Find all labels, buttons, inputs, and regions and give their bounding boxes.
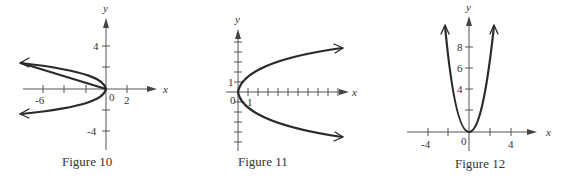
fig12-tick-label-neg4: -4 (421, 138, 431, 150)
fig10-tick-label-0: 0 (109, 91, 115, 103)
figure-12: x y 8 6 4 -4 0 4 Figure 12 (407, 1, 551, 171)
fig11-y-axis-arrow-icon (235, 29, 241, 39)
fig12-caption: Figure 12 (455, 156, 505, 171)
fig12-tick-label-6: 6 (457, 62, 463, 74)
fig10-y-axis-label: y (102, 2, 108, 14)
fig11-tick-label-0: 0 (230, 94, 236, 106)
fig10-tick-label-2: 2 (124, 94, 130, 106)
figure-11: x y (226, 13, 357, 169)
fig10-x-axis-arrow-icon (147, 86, 157, 92)
fig12-x-axis-arrow-icon (527, 129, 537, 135)
fig11-parabola-upper-branch (238, 48, 342, 92)
fig11-caption: Figure 11 (238, 154, 288, 169)
fig10-tick-label-4: 4 (93, 40, 99, 52)
fig12-tick-label-4y: 4 (457, 83, 463, 95)
fig12-y-axis-arrow-icon (466, 16, 472, 26)
fig12-x-axis-label: x (545, 126, 551, 138)
fig10-y-axis-arrow-icon (103, 18, 109, 28)
fig11-x-axis-arrow-icon (339, 89, 349, 95)
fig10-tick-label-neg6: -6 (35, 94, 45, 106)
fig12-tick-label-0: 0 (461, 135, 467, 147)
fig12-tick-label-4x: 4 (508, 138, 514, 150)
fig12-tick-label-8: 8 (457, 41, 463, 53)
figure-10: x y -6 0 2 4 -4 Figure 10 (20, 2, 168, 169)
fig11-x-axis-label: x (351, 86, 357, 98)
fig12-parabola-right-branch (469, 26, 494, 132)
fig10-caption: Figure 10 (62, 154, 112, 169)
fig10-tick-label-neg4: -4 (87, 125, 97, 137)
fig10-x-axis-label: x (162, 83, 168, 95)
fig11-y-axis-label: y (234, 13, 240, 25)
fig11-parabola-lower-branch (238, 92, 342, 137)
fig11-tick-label-y1: 1 (228, 76, 234, 88)
fig12-y-axis-label: y (465, 1, 471, 13)
figures-canvas: x y -6 0 2 4 -4 Figure 10 (0, 0, 572, 180)
